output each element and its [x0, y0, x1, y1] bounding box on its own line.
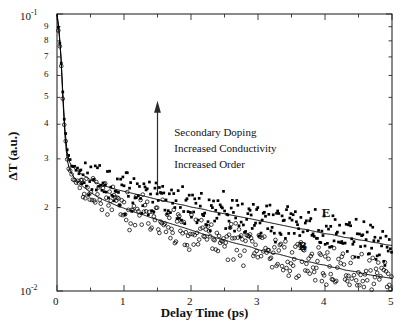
figure: ΔT (a.u.) Delay Time (ps) 10-1 10-2 0123… — [0, 0, 409, 329]
x-axis-label: Delay Time (ps) — [0, 305, 409, 321]
annotation-line: Increased Conductivity — [174, 142, 276, 154]
x-tick-label: 0 — [53, 295, 59, 307]
y-axis-bottom-tick-label: 10-2 — [20, 283, 37, 297]
y-tick-label: 5 — [44, 91, 49, 101]
y-tick-label: 4 — [44, 118, 49, 128]
y-tick-label: 8 — [44, 35, 49, 45]
trend-arrow-icon — [154, 101, 161, 194]
curve-label-e: E — [322, 205, 331, 221]
y-tick-label: 9 — [44, 21, 49, 31]
y-axis-top-tick-label: 10-1 — [20, 8, 37, 22]
x-tick-label: 3 — [254, 295, 260, 307]
y-axis-label: ΔT (a.u.) — [5, 116, 21, 196]
x-tick-label: 4 — [321, 295, 327, 307]
y-tick-label: 7 — [44, 51, 49, 61]
annotation-line: Secondary Doping — [174, 126, 256, 138]
x-tick-label: 5 — [388, 295, 394, 307]
curve-label-b: B — [298, 238, 307, 254]
y-tick-label: 6 — [44, 69, 49, 79]
x-tick-label: 1 — [120, 295, 126, 307]
y-tick-label: 2 — [44, 202, 49, 212]
y-tick-label: 3 — [44, 153, 49, 163]
annotation-line: Increased Order — [174, 158, 245, 170]
x-tick-label: 2 — [187, 295, 193, 307]
